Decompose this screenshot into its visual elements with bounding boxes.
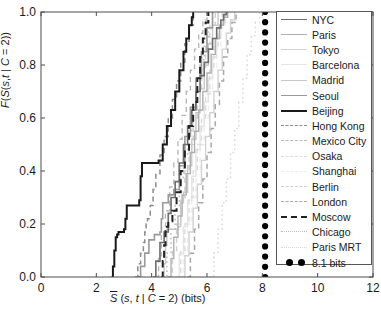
legend-label: Paris MRT (312, 242, 361, 253)
legend-label: Seoul (312, 90, 339, 101)
legend-item-8-1-bits[interactable]: 8.1 bits (277, 255, 371, 270)
legend-swatch-icon (281, 49, 307, 50)
legend-swatch-icon (281, 34, 307, 35)
figure-container: 0246810120.00.20.40.60.81.0 F(S(s,t | C … (0, 0, 381, 312)
legend-label: Barcelona (312, 60, 359, 71)
legend: NYCParisTokyoBarcelonaMadridSeoulBeijing… (276, 11, 372, 265)
legend-label: Beijing (312, 105, 344, 116)
legend-swatch-icon (281, 80, 307, 81)
legend-label: Madrid (312, 75, 344, 86)
reference-line-8-1-bits (262, 9, 268, 280)
y-tick-label: 0.2 (19, 217, 36, 231)
legend-swatch-icon (281, 186, 307, 187)
legend-swatch-icon (281, 110, 307, 112)
x-tick-label: 10 (311, 281, 325, 295)
legend-label: Berlin (312, 181, 339, 192)
y-tick-label: 0.6 (19, 111, 36, 125)
legend-item-tokyo[interactable]: Tokyo (277, 42, 371, 57)
legend-label: Chicago (312, 227, 351, 238)
legend-label: 8.1 bits (312, 257, 346, 268)
legend-swatch-icon (281, 201, 307, 202)
legend-item-moscow[interactable]: Moscow (277, 209, 371, 224)
legend-label: Mexico City (312, 136, 366, 147)
y-tick-label: 0.0 (19, 270, 36, 284)
legend-item-shanghai[interactable]: Shanghai (277, 164, 371, 179)
legend-label: Osaka (312, 151, 342, 162)
legend-label: Paris (312, 30, 336, 41)
legend-item-london[interactable]: London (277, 194, 371, 209)
legend-item-paris-mrt[interactable]: Paris MRT (277, 240, 371, 255)
legend-item-madrid[interactable]: Madrid (277, 73, 371, 88)
legend-item-osaka[interactable]: Osaka (277, 149, 371, 164)
legend-label: London (312, 197, 347, 208)
legend-item-berlin[interactable]: Berlin (277, 179, 371, 194)
x-tick-label: 2 (93, 281, 100, 295)
y-axis-label: F(S(s,t | C = 2)) (0, 0, 11, 108)
legend-swatch-icon (281, 247, 307, 248)
legend-swatch-icon (281, 64, 307, 65)
x-tick-label: 12 (366, 281, 380, 295)
legend-swatch-icon (281, 95, 307, 96)
legend-swatch-icon (281, 125, 307, 126)
legend-label: NYC (312, 14, 334, 25)
legend-item-barcelona[interactable]: Barcelona (277, 58, 371, 73)
legend-swatch-icon (281, 19, 307, 20)
legend-item-paris[interactable]: Paris (277, 27, 371, 42)
legend-item-chicago[interactable]: Chicago (277, 225, 371, 240)
legend-label: Tokyo (312, 45, 339, 56)
y-tick-label: 0.4 (19, 164, 36, 178)
legend-label: Moscow (312, 212, 351, 223)
legend-label: Hong Kong (312, 121, 365, 132)
legend-item-hong-kong[interactable]: Hong Kong (277, 118, 371, 133)
legend-swatch-icon (281, 259, 307, 267)
legend-swatch-icon (281, 156, 307, 157)
x-tick-label: 8 (259, 281, 266, 295)
y-tick-label: 1.0 (19, 5, 36, 19)
legend-swatch-icon (281, 171, 307, 172)
legend-item-beijing[interactable]: Beijing (277, 103, 371, 118)
legend-item-seoul[interactable]: Seoul (277, 88, 371, 103)
legend-label: Shanghai (312, 166, 356, 177)
legend-swatch-icon (281, 231, 307, 232)
x-axis-label: S (s, t | C = 2) (bits) (110, 292, 206, 304)
series-line-beijing (112, 12, 194, 277)
y-tick-label: 0.8 (19, 58, 36, 72)
legend-swatch-icon (281, 216, 307, 218)
x-tick-label: 0 (38, 281, 45, 295)
legend-item-mexico-city[interactable]: Mexico City (277, 134, 371, 149)
legend-swatch-icon (281, 140, 307, 141)
legend-item-nyc[interactable]: NYC (277, 12, 371, 27)
